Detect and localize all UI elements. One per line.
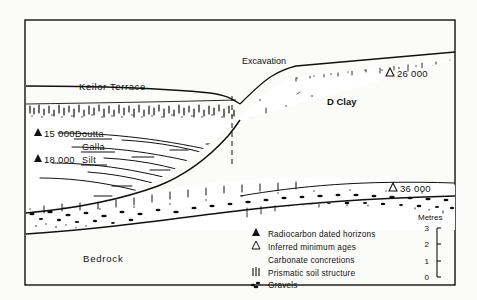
cross-section-canvas: Keilor Terrace Excavation D Clay Bedrock… [0,0,477,300]
legend-label-radiocarbon: Radiocarbon dated horizons [268,230,376,239]
label-keilor-terrace: Keilor Terrace [79,81,146,92]
scale-tick-1: 1 [425,257,430,266]
legend-label-carbonate: Carbonate concretions [268,256,355,265]
scale-tick-3: 3 [425,224,430,233]
scale-tick-0: 0 [425,273,430,282]
legend-label-inferred: Inferred minimum ages [268,243,356,252]
inferred-age-36000-value: 36 000 [400,183,431,194]
legend: Radiocarbon dated horizons Inferred mini… [251,228,376,290]
label-d-clay: D Clay [327,96,357,107]
dated-horizon-18000-value: 18 000 [44,154,75,165]
inferred-age-26000-value: 26 000 [397,68,428,79]
carbonate-band-top-line [26,100,236,104]
label-silt: Silt [82,155,96,165]
scale-tick-2: 2 [425,240,430,249]
label-excavation: Excavation [242,56,286,66]
legend-prismatic-bars-icon [253,267,259,276]
legend-label-gravels: Gravels [268,281,298,290]
legend-label-prismatic: Prismatic soil structure [268,269,355,278]
label-galla: Galla [82,142,105,152]
label-bedrock: Bedrock [83,253,123,264]
geological-cross-section-figure: Keilor Terrace Excavation D Clay Bedrock… [0,0,477,300]
scale-caption: Metres [418,213,442,222]
label-doutta: Doutta [75,129,104,139]
legend-open-triangle-icon [252,241,260,249]
dated-horizon-15000-value: 15 000 [44,128,75,139]
